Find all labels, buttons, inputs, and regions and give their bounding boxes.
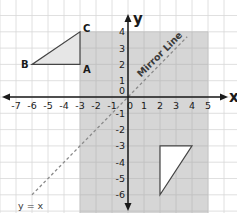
- y-tick-label: 0: [119, 85, 125, 96]
- vertex-label-c: C: [83, 23, 90, 34]
- y-tick-label: 4: [119, 26, 125, 37]
- y-tick-label: -6: [116, 189, 125, 200]
- x-axis-label: x: [229, 88, 237, 106]
- y-tick-label: 3: [119, 43, 125, 54]
- grid-svg: xy-7-6-5-4-3-2-101234543210-1-2-3-4-5-6A…: [0, 0, 237, 213]
- equation-label-y-equals-x: y = x: [18, 200, 44, 211]
- y-tick-label: -4: [116, 157, 125, 168]
- x-tick-label: -3: [75, 100, 84, 111]
- x-tick-label: -4: [59, 100, 68, 111]
- x-tick-label: 0: [127, 100, 133, 111]
- x-tick-label: 5: [205, 100, 211, 111]
- y-tick-label: -1: [116, 108, 125, 119]
- vertex-label-b: B: [21, 59, 29, 70]
- y-axis-label: y: [133, 10, 143, 28]
- x-tick-label: 4: [189, 100, 195, 111]
- x-tick-label: 2: [157, 100, 163, 111]
- x-tick-label: -2: [91, 100, 100, 111]
- y-tick-label: -3: [116, 140, 125, 151]
- x-axis-arrow-left-icon: [2, 94, 10, 101]
- vertex-label-a: A: [83, 64, 91, 75]
- x-tick-label: -6: [27, 100, 36, 111]
- x-tick-label: 1: [141, 100, 147, 111]
- y-tick-label: 2: [119, 59, 125, 70]
- x-tick-label: -7: [11, 100, 20, 111]
- y-tick-label: -5: [116, 173, 125, 184]
- x-tick-label: -5: [43, 100, 52, 111]
- x-tick-label: 3: [173, 100, 179, 111]
- coordinate-grid-diagram: xy-7-6-5-4-3-2-101234543210-1-2-3-4-5-6A…: [0, 0, 237, 213]
- y-tick-label: -2: [116, 124, 125, 135]
